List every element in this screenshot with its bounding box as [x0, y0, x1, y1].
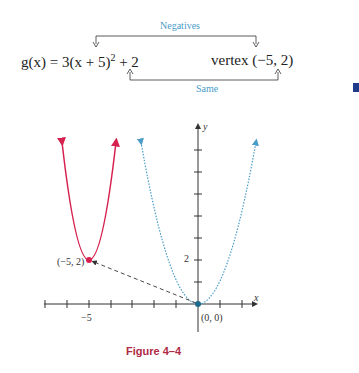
y-axis-label: y [203, 121, 207, 132]
x-tick-label: −5 [81, 312, 92, 323]
origin-point-label: (0, 0) [201, 312, 223, 323]
page-marker [353, 83, 359, 92]
x-axis-label: x [254, 292, 258, 303]
figure-caption: Figure 4–4 [126, 345, 181, 357]
same-bracket [127, 69, 281, 80]
transformed-parabola [62, 142, 116, 260]
x-axis [44, 300, 255, 308]
vertex-point-label: (−5, 2) [57, 256, 84, 267]
negatives-bracket [93, 36, 259, 47]
vertex-point [86, 257, 92, 263]
origin-point [195, 301, 201, 307]
translation-arrow [94, 262, 196, 303]
y-tick-label: 2 [184, 253, 189, 264]
